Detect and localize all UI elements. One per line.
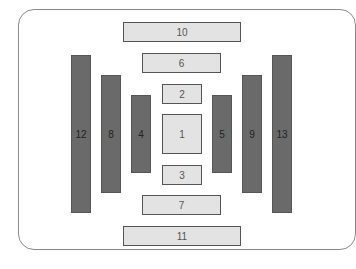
box-6: 6 xyxy=(142,53,221,73)
box-9: 9 xyxy=(242,75,262,193)
box-4: 4 xyxy=(131,95,151,173)
box-10: 10 xyxy=(123,22,241,42)
box-13: 13 xyxy=(272,55,292,213)
box-12: 12 xyxy=(71,55,91,213)
box-1: 1 xyxy=(162,114,202,154)
box-8: 8 xyxy=(101,75,121,193)
box-5: 5 xyxy=(212,95,232,173)
box-7: 7 xyxy=(142,195,221,215)
box-2: 2 xyxy=(162,84,202,104)
box-11: 11 xyxy=(123,226,241,246)
box-3: 3 xyxy=(162,165,202,185)
